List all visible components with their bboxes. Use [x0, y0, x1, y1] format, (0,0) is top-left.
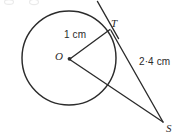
- tangent-segment-TS: [111, 31, 163, 123]
- geometry-canvas: [0, 0, 181, 140]
- scan-edge-artifacts: [5, 0, 39, 5]
- point-label-S: S: [166, 123, 172, 134]
- point-label-T: T: [111, 18, 117, 29]
- hypotenuse-segment-OS: [71, 60, 164, 122]
- radius-measurement-label: 1 cm: [64, 30, 86, 40]
- tangent-measurement-label: 2·4 cm: [139, 57, 170, 67]
- center-point-dot: [68, 57, 72, 61]
- geometry-diagram: O T S 1 cm 2·4 cm: [0, 0, 181, 140]
- point-label-O: O: [55, 51, 63, 62]
